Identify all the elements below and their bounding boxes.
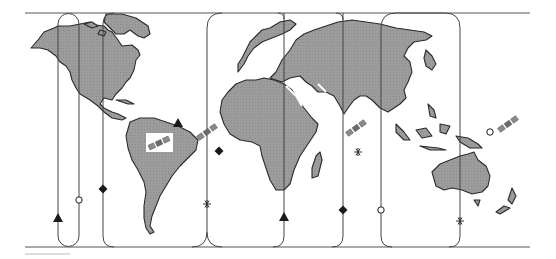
triangle-marker-icon bbox=[53, 213, 63, 222]
philippines bbox=[428, 104, 436, 118]
triangle-marker-icon bbox=[279, 212, 289, 221]
asterisk-marker-icon bbox=[456, 217, 464, 225]
circle-marker-icon bbox=[378, 207, 384, 213]
asterisk-marker-icon bbox=[203, 200, 211, 208]
africa bbox=[220, 78, 318, 190]
satellite-icon bbox=[498, 116, 519, 133]
caribbean bbox=[116, 100, 134, 104]
madagascar bbox=[312, 152, 322, 178]
asterisk-marker-icon bbox=[354, 148, 362, 156]
circle-marker-icon bbox=[76, 197, 82, 203]
australia bbox=[432, 152, 490, 194]
satellite-icon bbox=[346, 120, 367, 137]
new-zealand bbox=[496, 188, 516, 214]
map-canvas bbox=[0, 0, 556, 259]
north-america bbox=[31, 22, 140, 120]
satellites-layer bbox=[146, 116, 518, 152]
japan bbox=[424, 50, 436, 70]
diamond-marker-icon bbox=[99, 185, 108, 194]
indonesia bbox=[396, 124, 450, 150]
tasmania bbox=[474, 200, 480, 206]
world-coverage-map bbox=[0, 0, 556, 259]
triangle-marker-icon bbox=[173, 118, 183, 127]
diamond-marker-icon bbox=[215, 147, 224, 156]
land-masses bbox=[31, 14, 516, 234]
circle-marker-icon bbox=[487, 129, 493, 135]
diamond-marker-icon bbox=[339, 206, 348, 215]
